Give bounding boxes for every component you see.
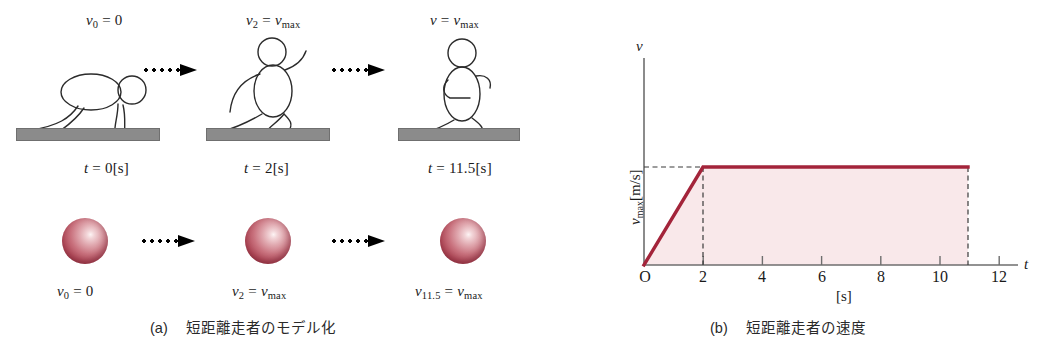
sphere-model-2	[245, 218, 291, 264]
origin-label: O	[633, 268, 657, 286]
panel-b-caption: (b) 短距離走者の速度	[710, 316, 866, 337]
sphere-model-1	[62, 218, 108, 264]
x-axis-symbol: t	[1024, 256, 1028, 273]
velocity-time-chart	[600, 0, 1041, 310]
x-tick-label-6: 6	[810, 268, 834, 286]
x-tick-label-12: 12	[987, 268, 1011, 286]
motion-arrow-2	[330, 64, 386, 76]
panel-a-runner-model: v0 = 0 v2 = vmax v = vmax	[0, 0, 600, 350]
time-label-t115: t = 11.5[s]	[428, 160, 492, 177]
runner-figure-upright-sprint	[400, 36, 530, 136]
x-tick-label-4: 4	[750, 268, 774, 286]
velocity-label-v0-bottom: v0 = 0	[57, 283, 94, 301]
runner-figure-accelerating	[210, 36, 350, 136]
time-label-t2: t = 2[s]	[244, 160, 289, 177]
panel-b-velocity-graph: v t O vmax[m/s] 2 4 6 8 10 12 [s] (b) 短距…	[600, 0, 1041, 350]
ground-bar-1	[16, 128, 160, 141]
time-label-t0: t = 0[s]	[84, 160, 129, 177]
panel-a-caption-text: 短距離走者のモデル化	[186, 320, 336, 336]
velocity-label-v2-bottom: v2 = vmax	[232, 283, 286, 301]
y-axis-label: vmax[m/s]	[627, 169, 645, 225]
y-axis-symbol: v	[636, 38, 643, 55]
velocity-label-v-top: v = vmax	[430, 12, 479, 30]
ground-bar-2	[206, 128, 330, 141]
panel-b-caption-index: (b)	[710, 320, 728, 336]
x-tick-label-2: 2	[691, 268, 715, 286]
x-tick-label-8: 8	[869, 268, 893, 286]
x-axis-unit: [s]	[836, 288, 852, 305]
velocity-label-v0-top: v0 = 0	[86, 12, 123, 30]
panel-a-caption: (a) 短距離走者のモデル化	[150, 316, 336, 337]
panel-a-caption-index: (a)	[150, 320, 168, 336]
motion-arrow-4	[330, 235, 386, 247]
velocity-label-v2-top: v2 = vmax	[246, 12, 300, 30]
sphere-model-3	[440, 218, 486, 264]
panel-b-caption-text: 短距離走者の速度	[746, 320, 866, 336]
motion-arrow-3	[140, 235, 196, 247]
ground-bar-3	[398, 128, 520, 141]
velocity-label-v115-bottom: v11.5 = vmax	[415, 283, 483, 301]
motion-arrow-1	[142, 64, 198, 76]
x-tick-label-10: 10	[928, 268, 952, 286]
